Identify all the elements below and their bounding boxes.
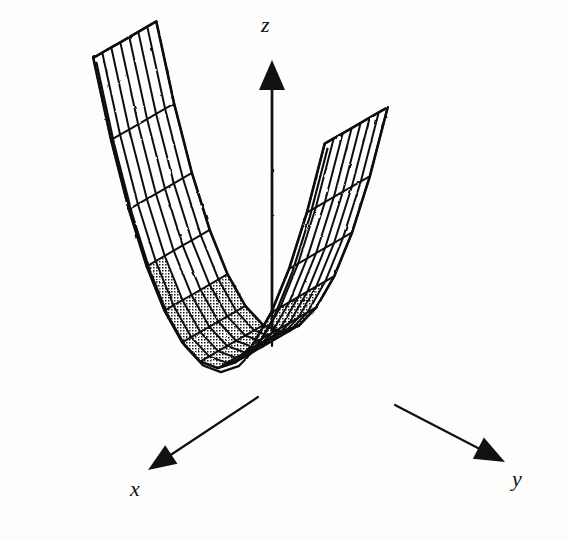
surface-plot-canvas xyxy=(0,0,570,540)
axis-label-z: z xyxy=(261,14,270,36)
surface-plot-figure: x y z xyxy=(0,0,570,540)
y-axis-arrow xyxy=(395,405,505,462)
axis-label-x: x xyxy=(130,478,140,500)
x-axis-arrow xyxy=(148,397,258,470)
surface-scene xyxy=(93,21,387,372)
axis-label-y: y xyxy=(512,468,522,490)
